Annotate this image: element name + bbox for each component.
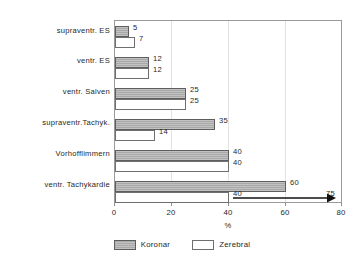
legend-swatch-zerebral-icon xyxy=(192,240,214,250)
tick-label-40: 40 xyxy=(216,209,240,217)
tick-mark-60 xyxy=(285,203,286,206)
category-label-supraventr-es: supraventr. ES xyxy=(57,27,110,35)
bar-zerebral-ventr-tachykardie xyxy=(115,192,229,203)
category-label-ventr-es: ventr. ES xyxy=(77,57,110,65)
tick-label-80: 80 xyxy=(329,209,353,217)
plot-area xyxy=(114,20,342,203)
x-axis-title: % xyxy=(216,222,240,230)
tick-mark-40 xyxy=(228,203,229,206)
value-label-zerebral-ventr-salven: 25 xyxy=(190,97,199,105)
bar-chart: supraventr. ES ventr. ES ventr. Salven s… xyxy=(0,0,364,262)
value-label-zerebral-supraventr-es: 7 xyxy=(139,35,143,43)
gridline-40 xyxy=(228,21,229,202)
value-label-koronar-supraventr-es: 5 xyxy=(133,24,137,32)
bar-koronar-ventr-tachykardie xyxy=(115,181,286,192)
value-label-zerebral-ventr-es: 12 xyxy=(153,66,162,74)
bar-koronar-supraventr-es xyxy=(115,26,129,37)
tick-mark-20 xyxy=(171,203,172,206)
bar-zerebral-supraventr-tachyk xyxy=(115,130,155,141)
bar-zerebral-vorhofflimmern xyxy=(115,161,229,172)
bar-koronar-ventr-es xyxy=(115,57,149,68)
bar-zerebral-ventr-es xyxy=(115,68,149,79)
bar-zerebral-supraventr-es xyxy=(115,37,135,48)
value-label-zerebral-vorhofflimmern: 40 xyxy=(233,159,242,167)
tick-label-60: 60 xyxy=(273,209,297,217)
value-label-koronar-vorhofflimmern: 40 xyxy=(233,148,242,156)
legend-label-koronar: Koronar xyxy=(141,241,171,249)
value-label-zerebral-ventr-tachykardie: 40 xyxy=(233,190,242,198)
value-label-zerebral-supraventr-tachyk: 14 xyxy=(159,128,168,136)
annotation-end-label: 75 xyxy=(326,190,335,198)
bar-koronar-vorhofflimmern xyxy=(115,150,229,161)
legend-item-zerebral: Zerebral xyxy=(192,240,250,250)
bar-zerebral-ventr-salven xyxy=(115,99,186,110)
tick-label-0: 0 xyxy=(102,209,126,217)
bar-koronar-ventr-salven xyxy=(115,88,186,99)
legend-label-zerebral: Zerebral xyxy=(219,241,250,249)
gridline-60 xyxy=(285,21,286,202)
category-label-supraventr-tachyk: supraventr.Tachyk. xyxy=(42,119,110,127)
gridline-20 xyxy=(171,21,172,202)
tick-mark-0 xyxy=(114,203,115,206)
legend-swatch-koronar-icon xyxy=(114,240,136,250)
value-label-koronar-ventr-salven: 25 xyxy=(190,86,199,94)
value-label-koronar-ventr-tachykardie: 60 xyxy=(290,179,299,187)
category-label-ventr-tachykardie: ventr. Tachykardie xyxy=(44,181,110,189)
category-label-vorhofflimmern: Vorhofflimmern xyxy=(56,150,110,158)
chart-legend: Koronar Zerebral xyxy=(0,240,364,250)
legend-item-koronar: Koronar xyxy=(114,240,171,250)
category-label-ventr-salven: ventr. Salven xyxy=(63,88,110,96)
tick-mark-80 xyxy=(341,203,342,206)
value-label-koronar-supraventr-tachyk: 35 xyxy=(219,117,228,125)
tick-label-20: 20 xyxy=(159,209,183,217)
value-label-koronar-ventr-es: 12 xyxy=(153,55,162,63)
